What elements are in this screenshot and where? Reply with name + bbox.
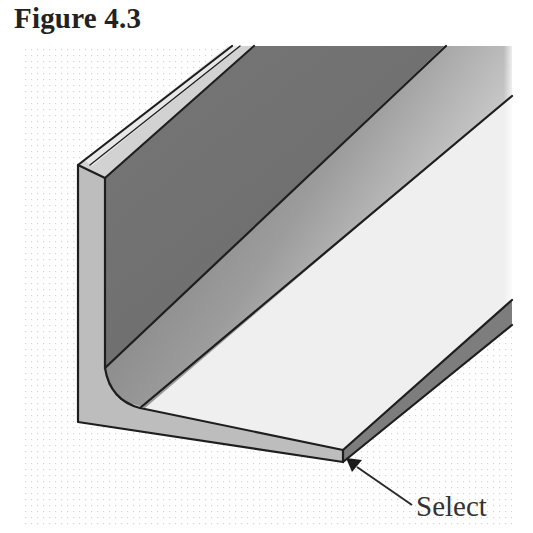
- angle-bracket-diagram: [0, 0, 533, 533]
- select-label: Select: [416, 490, 487, 523]
